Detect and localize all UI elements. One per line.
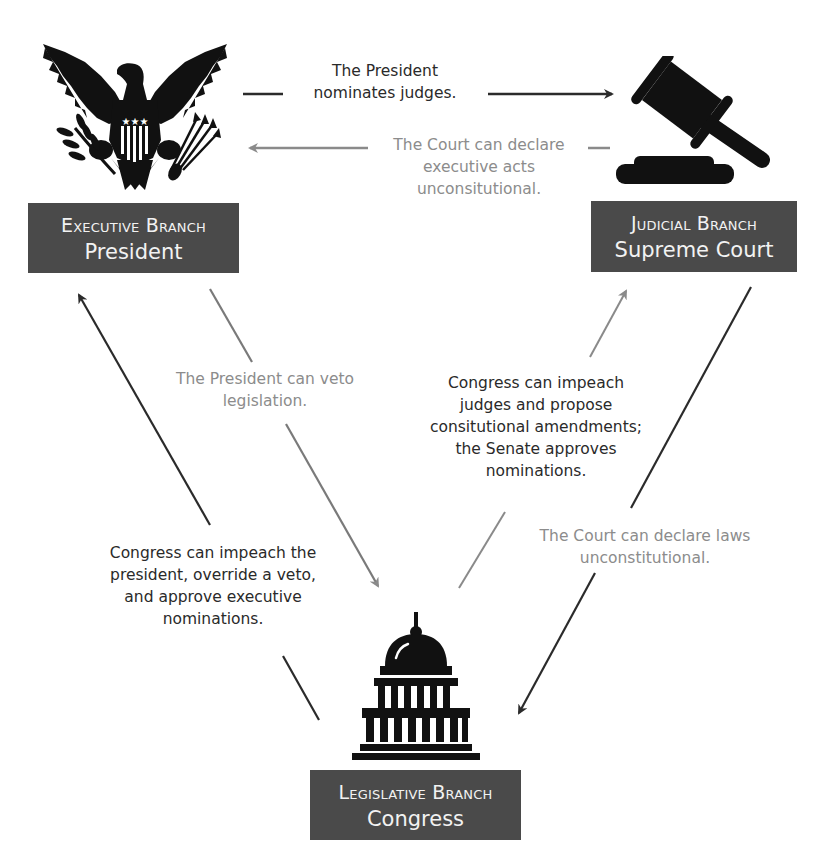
label-line: executive acts: [370, 156, 588, 178]
arrow-veto-tail: [210, 289, 252, 362]
label-line: The Court can declare laws: [525, 525, 765, 547]
label-line: judges and propose: [418, 394, 654, 416]
label-court-declares-exec: The Court can declare executive acts unc…: [370, 134, 588, 200]
label-line: nominates judges.: [290, 82, 480, 104]
gavel-icon: [612, 56, 792, 191]
label-line: unconsitutional.: [370, 178, 588, 200]
label-line: Congress can impeach: [418, 372, 654, 394]
legislative-branch-subtitle: Congress: [310, 805, 521, 833]
svg-text:★★★: ★★★: [122, 116, 149, 127]
label-congress-checks-president: Congress can impeach the president, over…: [88, 542, 338, 630]
executive-branch-title: Executive Branch: [28, 212, 239, 238]
label-line: nominations.: [88, 608, 338, 630]
eagle-seal-icon: ★★★: [35, 40, 235, 195]
label-line: The Court can declare: [370, 134, 588, 156]
label-line: the Senate approves: [418, 438, 654, 460]
judicial-branch-subtitle: Supreme Court: [591, 236, 797, 264]
legislative-branch-title: Legislative Branch: [310, 779, 521, 805]
arrow-congress-exec-tail: [283, 656, 319, 720]
label-line: unconstitutional.: [525, 547, 765, 569]
legislative-branch-box: Legislative Branch Congress: [310, 770, 521, 840]
judicial-branch-box: Judicial Branch Supreme Court: [591, 201, 797, 272]
label-line: consitutional amendments;: [418, 416, 654, 438]
label-president-nominates: The President nominates judges.: [290, 60, 480, 104]
label-line: The President: [290, 60, 480, 82]
judicial-branch-title: Judicial Branch: [591, 210, 797, 236]
executive-branch-subtitle: President: [28, 238, 239, 266]
label-congress-checks-court: Congress can impeach judges and propose …: [418, 372, 654, 482]
label-court-declares-laws: The Court can declare laws unconstitutio…: [525, 525, 765, 569]
arrow-congress-court: [590, 291, 626, 357]
label-line: Congress can impeach the: [88, 542, 338, 564]
label-line: nominations.: [418, 460, 654, 482]
label-line: president, override a veto,: [88, 564, 338, 586]
arrow-congress-court-tail: [459, 512, 505, 588]
arrow-court-laws: [519, 573, 595, 713]
label-line: legislation.: [150, 390, 380, 412]
label-line: The President can veto: [150, 368, 380, 390]
capitol-building-icon: [352, 610, 482, 760]
label-line: and approve executive: [88, 586, 338, 608]
executive-branch-box: Executive Branch President: [28, 203, 239, 273]
label-president-veto: The President can veto legislation.: [150, 368, 380, 412]
